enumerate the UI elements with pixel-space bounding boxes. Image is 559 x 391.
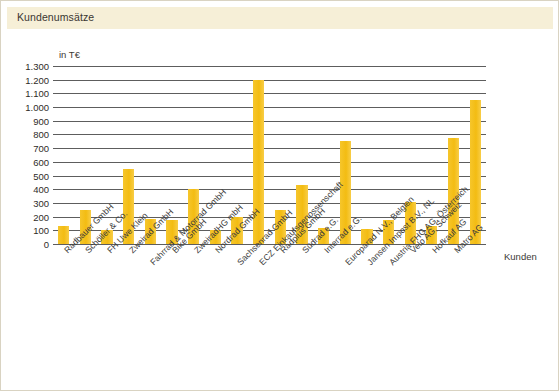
plot-area: in T€ Kunden 1.3001.2001.1001.0009008007…: [7, 35, 553, 385]
y-axis-tick-label: 700: [33, 143, 49, 154]
chart-figure: Kundenumsätze in T€ Kunden 1.3001.2001.1…: [0, 0, 559, 391]
y-axis-tick-label: 1.300: [25, 61, 49, 72]
y-axis-tick-label: 1.000: [25, 102, 49, 113]
page-title: Kundenumsätze: [17, 11, 94, 23]
x-axis-title: Kunden: [504, 251, 537, 262]
y-axis-unit-label: in T€: [59, 49, 80, 60]
y-axis-tick-label: 0: [44, 239, 49, 250]
y-axis-tick-label: 300: [33, 197, 49, 208]
x-axis-category-labels: Radbauer GmbHSchöller & Co.FH Uwe KleinZ…: [53, 245, 493, 380]
y-axis-tick-label: 900: [33, 115, 49, 126]
y-axis-tick-labels: 1.3001.2001.1001.00090080070060050040030…: [7, 66, 49, 244]
y-axis-tick-label: 200: [33, 211, 49, 222]
y-axis-tick-label: 100: [33, 225, 49, 236]
y-axis-tick-label: 500: [33, 170, 49, 181]
chart-title-band: Kundenumsätze: [7, 7, 553, 29]
y-axis-tick-label: 600: [33, 156, 49, 167]
y-axis-tick-label: 1.100: [25, 88, 49, 99]
y-axis-tick-label: 400: [33, 184, 49, 195]
y-axis-tick-label: 1.200: [25, 74, 49, 85]
y-axis-tick-label: 800: [33, 129, 49, 140]
